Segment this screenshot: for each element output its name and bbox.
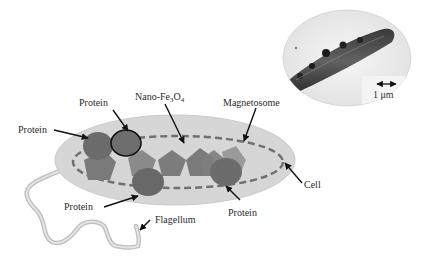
label-protein-left: Protein: [18, 125, 47, 135]
label-protein-bottom-right: Protein: [228, 208, 257, 218]
label-protein-top: Protein: [79, 98, 108, 108]
label-nano-fe3o4: Nano-Fe3O4: [135, 92, 184, 104]
nano-sub-4: 4: [181, 96, 185, 104]
magnetotactic-bacterium-diagram: Protein Protein Nano-Fe3O4 Magnetosome C…: [0, 0, 421, 257]
nano-mid: O: [174, 91, 181, 102]
label-protein-bottom-left: Protein: [64, 202, 93, 212]
label-flagellum: Flagellum: [155, 215, 196, 225]
label-magnetosome: Magnetosome: [223, 98, 280, 108]
scale-bar-label: 1 μm: [373, 89, 394, 100]
diagram-canvas: [0, 0, 421, 257]
nano-prefix: Nano-Fe: [135, 91, 170, 102]
label-cell: Cell: [304, 180, 321, 190]
